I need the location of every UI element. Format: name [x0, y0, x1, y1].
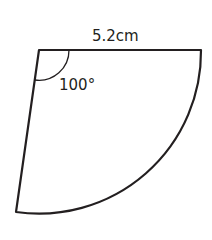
radius-label: 5.2cm [92, 29, 139, 44]
sector-outline [16, 50, 201, 214]
angle-label: 100° [59, 78, 95, 93]
